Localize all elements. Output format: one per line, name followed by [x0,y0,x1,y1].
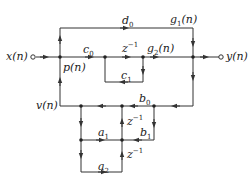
node-g2-label: g2(n) [147,43,174,57]
output-label: y(n) [226,51,248,62]
input-terminal [31,55,35,59]
coef-c1: c1 [121,70,132,84]
signal-flow-diagram: x(n) y(n) p(n) v(n) g1(n) g2(n) d0 c0 c1… [0,0,249,186]
coef-c0: c0 [83,44,94,58]
delay-mid: z−1 [127,115,143,127]
input-label: x(n) [6,51,28,62]
delay-top: z−1 [122,42,138,54]
node-g1-label: g1(n) [170,14,197,28]
coef-a2: a2 [98,161,109,175]
node-p-label: p(n) [63,62,86,73]
output-terminal [219,55,223,59]
coef-d0: d0 [122,15,134,29]
coef-b0: b0 [139,93,151,107]
node-v-label: v(n) [36,100,58,111]
coef-b1: b1 [140,127,152,141]
delay-low: z−1 [127,148,143,160]
coef-a1: a1 [98,127,109,141]
